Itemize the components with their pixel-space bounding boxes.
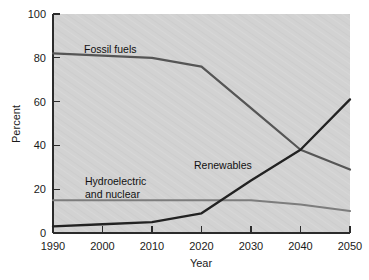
x-tick-label-2010: 2010: [140, 240, 164, 252]
energy-mix-line-chart: 100 80 60 40 20 0 1990 2000 2010 2020 20…: [0, 0, 369, 280]
x-tick-label-2030: 2030: [239, 240, 263, 252]
annotation-hydro-line-2: and nuclear: [85, 188, 140, 200]
x-tick-label-1990: 1990: [41, 240, 65, 252]
y-tick-label-20: 20: [34, 183, 46, 195]
y-tick-label-80: 80: [34, 52, 46, 64]
y-tick-label-0: 0: [40, 227, 46, 239]
chart-container: 100 80 60 40 20 0 1990 2000 2010 2020 20…: [0, 0, 369, 280]
y-tick-label-40: 40: [34, 139, 46, 151]
annotation-hydro-line-1: Hydroelectric: [85, 175, 146, 187]
x-axis-title: Year: [190, 257, 213, 269]
x-tick-label-2000: 2000: [90, 240, 114, 252]
x-tick-label-2050: 2050: [338, 240, 362, 252]
annotation-fossil-fuels: Fossil fuels: [84, 43, 137, 55]
y-tick-label-100: 100: [28, 8, 46, 20]
x-tick-label-2020: 2020: [189, 240, 213, 252]
y-axis-title: Percent: [10, 105, 22, 143]
annotation-renewables: Renewables: [194, 159, 252, 171]
y-tick-label-60: 60: [34, 96, 46, 108]
x-tick-label-2040: 2040: [288, 240, 312, 252]
